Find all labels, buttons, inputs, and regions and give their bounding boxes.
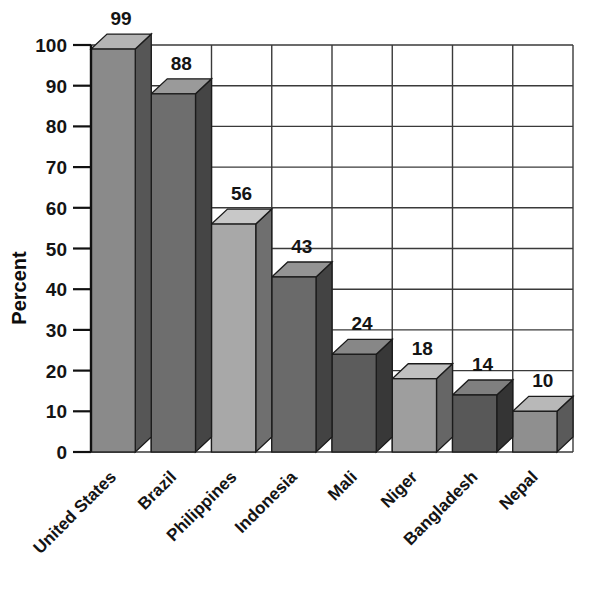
y-axis-tick-label: 100 — [35, 35, 67, 56]
x-axis-category-label: Nepal — [496, 467, 542, 513]
bar-front-face — [513, 411, 557, 452]
x-axis-category-label: Niger — [377, 467, 421, 511]
bar-value-label: 10 — [532, 370, 553, 391]
bar-mali — [332, 339, 392, 452]
x-axis-category-label: Brazil — [134, 467, 180, 513]
bar-united-states — [91, 34, 151, 452]
bar-brazil — [151, 79, 211, 452]
bar-front-face — [453, 395, 497, 452]
bar-value-label: 18 — [412, 338, 433, 359]
bar-front-face — [151, 94, 195, 452]
bar-philippines — [212, 209, 272, 452]
bar-value-label: 43 — [291, 236, 312, 257]
bar-side-face — [316, 262, 332, 452]
bar-side-face — [256, 209, 272, 452]
x-axis-category-label: Mali — [324, 467, 361, 504]
bar-chart-figure: 01020304050607080901009988564324181410Un… — [0, 0, 604, 595]
y-axis-tick-label: 80 — [46, 116, 67, 137]
bar-side-face — [196, 79, 212, 452]
bar-front-face — [332, 354, 376, 452]
bar-value-label: 14 — [472, 354, 494, 375]
bar-value-label: 24 — [352, 313, 374, 334]
bar-front-face — [272, 277, 316, 452]
bar-bangladesh — [453, 380, 513, 452]
y-axis-tick-label: 0 — [56, 442, 67, 463]
bar-side-face — [135, 34, 151, 452]
bar-value-label: 88 — [171, 53, 192, 74]
bar-front-face — [212, 224, 256, 452]
bar-side-face — [376, 339, 392, 452]
chart-canvas: 01020304050607080901009988564324181410Un… — [0, 0, 604, 595]
y-axis-tick-label: 20 — [46, 361, 67, 382]
y-axis-tick-label: 60 — [46, 198, 67, 219]
y-axis-tick-label: 50 — [46, 239, 67, 260]
bar-value-label: 99 — [111, 8, 132, 29]
x-axis-category-label: United States — [30, 467, 120, 557]
bar-indonesia — [272, 262, 332, 452]
y-axis-tick-label: 70 — [46, 157, 67, 178]
bar-front-face — [91, 49, 135, 452]
bar-niger — [392, 364, 452, 452]
bar-nepal — [513, 396, 573, 452]
y-axis-tick-label: 10 — [46, 401, 67, 422]
bar-front-face — [392, 379, 436, 452]
y-axis-title: Percent — [8, 251, 30, 325]
y-axis-tick-label: 30 — [46, 320, 67, 341]
bar-value-label: 56 — [231, 183, 252, 204]
x-axis-category-label: Indonesia — [231, 467, 301, 537]
y-axis-tick-label: 40 — [46, 279, 67, 300]
y-axis-tick-label: 90 — [46, 76, 67, 97]
